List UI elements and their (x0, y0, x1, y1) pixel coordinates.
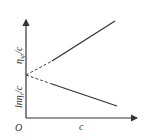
upper-series-solid (52, 21, 115, 61)
x-axis-label: c (79, 121, 84, 132)
y-label-lower: lnηr/c (13, 85, 25, 108)
origin-label: O (15, 122, 22, 133)
lower-series-dashed (26, 75, 52, 84)
lower-series-solid (52, 84, 117, 106)
intrinsic-viscosity-chart: ηsp/c lnηr/c O c (0, 0, 148, 140)
upper-series-dashed (26, 61, 52, 75)
y-label-upper: ηsp/c (13, 46, 25, 64)
